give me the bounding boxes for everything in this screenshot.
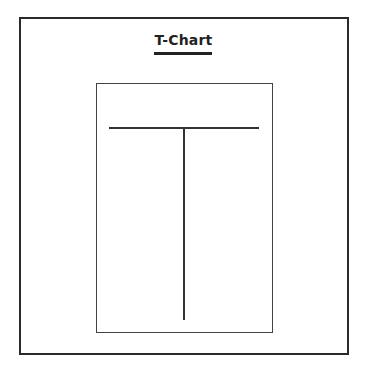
t-chart-vertical-line	[183, 128, 185, 320]
page-title: T-Chart	[0, 32, 367, 48]
title-underline	[154, 52, 212, 55]
